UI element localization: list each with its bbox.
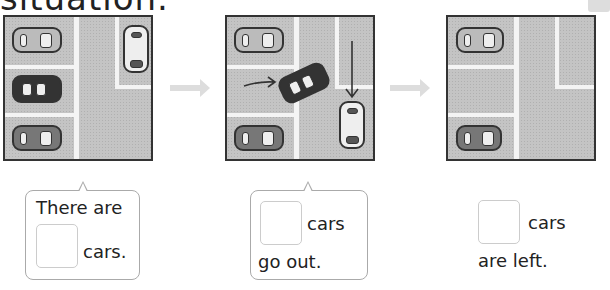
speech-bubble-start: There are cars. [25,190,140,280]
answer-box-out[interactable] [260,201,302,245]
caption-text: There are [36,197,122,218]
lane-divider [227,65,295,69]
flow-arrow-icon [170,85,200,91]
flow-arrow-icon [390,85,420,91]
movement-arrow-icon [242,72,282,92]
lane-divider [448,65,515,69]
car-dark [12,75,62,103]
answer-box-total[interactable] [36,224,78,268]
caption-text: are left. [478,250,548,271]
car-light [12,27,62,53]
caption-text: cars. [83,241,126,262]
caption-text: cars [528,212,566,233]
lane-divider [555,85,594,89]
lane-divider [448,113,515,117]
car-light [456,27,504,53]
lane-divider [74,17,79,159]
caption-text: cars [307,213,345,234]
lane-divider [5,65,75,69]
parking-lot-leaving [225,15,375,161]
caption-text: go out. [258,251,321,272]
lane-divider [555,17,559,87]
lane-divider [335,17,339,87]
car-medium [456,125,502,151]
car-medium [234,125,284,151]
bubble-tail [78,181,88,191]
car-medium [12,125,62,151]
movement-arrow-icon [342,39,362,101]
lane-divider [115,85,151,89]
bubble-tail [303,181,313,191]
car-white [123,25,149,73]
answer-box-left[interactable] [478,200,520,244]
lane-divider [115,17,119,87]
parking-lot-before [3,15,153,161]
parking-lot-after [446,15,596,161]
corner-tab [588,0,610,12]
speech-bubble-leaving: cars go out. [250,190,368,280]
car-light [234,27,284,53]
lane-divider [227,113,295,117]
lane-divider [5,113,75,117]
car-white-moving [339,101,365,149]
lane-divider [514,17,519,159]
